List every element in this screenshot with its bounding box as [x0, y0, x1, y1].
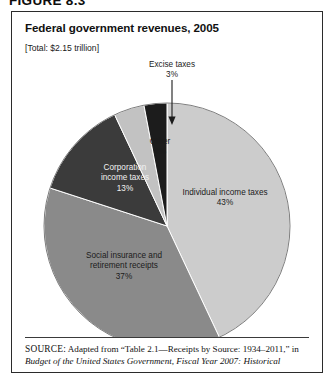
excise-taxes-leader [168, 80, 175, 125]
source-prefix: SOURCE: [25, 344, 66, 354]
figure-page: FIGURE 8.3 Federal government revenues, … [0, 0, 334, 374]
figure-frame: Federal government revenues, 2005 [Total… [11, 11, 323, 373]
pie-chart: Individual income taxes43%Social insuran… [12, 58, 322, 338]
source-note: SOURCE: Adapted from “Table 2.1—Receipts… [25, 343, 313, 368]
chart-title: Federal government revenues, 2005 [25, 21, 219, 34]
source-divider [25, 337, 309, 338]
figure-number-label: FIGURE 8.3 [9, 0, 86, 8]
pie-chart-svg: Individual income taxes43%Social insuran… [12, 58, 322, 338]
pie-label-excise-taxes: Excise taxes3% [149, 60, 195, 79]
source-line-1: Adapted from “Table 2.1—Receipts by Sour… [66, 344, 299, 354]
chart-subtitle-total: [Total: $2.15 trillion] [25, 43, 99, 53]
source-line-2: Budget of the United States Government, … [25, 356, 280, 366]
